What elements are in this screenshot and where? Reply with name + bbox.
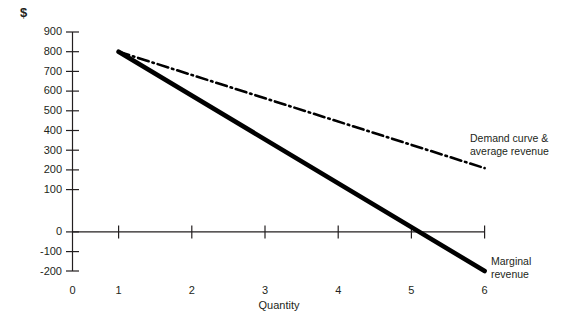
y-tick-label-300: 300 [18,144,62,157]
y-tick-label-500: 500 [18,104,62,117]
x-tick-label-6: 6 [473,284,497,297]
x-tick-label-0: 0 [61,284,85,297]
demand-curve-annotation-line2: average revenue [470,145,549,158]
y-tick-label-800: 800 [18,45,62,58]
y-tick-label-700: 700 [18,65,62,78]
y-tick-label-400: 400 [18,124,62,137]
y-tick-label-600: 600 [18,84,62,97]
y-tick-label-minus200: -200 [18,265,62,278]
x-tick-label-4: 4 [326,284,350,297]
economics-chart: $ 900 800 700 600 500 400 300 200 100 0 … [0,0,566,322]
y-tick-label-100: 100 [18,183,62,196]
demand-curve-annotation-line1: Demand curve & [470,132,548,145]
x-tick-label-3: 3 [253,284,277,297]
marginal-revenue-annotation-line1: Marginal [491,255,531,268]
x-tick-label-1: 1 [107,284,131,297]
x-tick-label-5: 5 [399,284,423,297]
x-tick-label-2: 2 [180,284,204,297]
marginal-revenue-line [119,52,485,271]
y-tick-label-900: 900 [18,25,62,38]
y-tick-label-minus100: -100 [18,245,62,258]
plot-area [0,0,566,322]
y-tick-label-200: 200 [18,163,62,176]
demand-curve-line [119,52,485,168]
y-axis-title: $ [20,6,27,19]
x-axis-title: Quantity [239,299,319,312]
y-tick-label-0: 0 [18,225,62,238]
marginal-revenue-annotation-line2: revenue [491,268,529,281]
